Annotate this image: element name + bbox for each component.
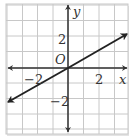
y-tick-label-2: 2	[58, 32, 66, 47]
coordinate-plane: y x O 2 −2 −2 2	[0, 0, 130, 140]
x-tick-label-2: 2	[95, 72, 103, 87]
x-tick-label-neg2: −2	[24, 72, 43, 87]
y-tick-label-neg2: −2	[50, 94, 69, 109]
x-axis-label: x	[119, 72, 127, 87]
origin-label: O	[55, 52, 66, 67]
y-axis-label: y	[72, 4, 81, 19]
